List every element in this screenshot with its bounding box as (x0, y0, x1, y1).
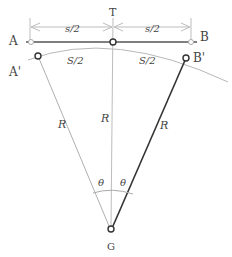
diagram-svg: T A B A' B' G s/2 s/2 S/2 S/2 R R R θ θ (0, 0, 232, 257)
label-G: G (107, 241, 115, 252)
point-B (189, 40, 194, 45)
arc-chord-diagram: T A B A' B' G s/2 s/2 S/2 S/2 R R R θ θ (0, 0, 232, 257)
label-A: A (8, 34, 18, 48)
point-T (110, 39, 116, 45)
point-A (29, 40, 34, 45)
label-B-prime: B' (193, 51, 205, 65)
point-G (108, 226, 114, 232)
label-angle-right: θ (120, 177, 126, 188)
center-axis-line (111, 18, 113, 227)
label-A-prime: A' (8, 65, 21, 79)
point-A-prime (35, 53, 41, 59)
label-half-chord-right: s/2 (145, 23, 160, 34)
label-half-chord-left: s/2 (65, 23, 80, 34)
label-angle-left: θ (98, 177, 104, 188)
radius-line-left (38, 56, 109, 226)
label-B: B (200, 30, 209, 44)
label-half-arc-left: S/2 (67, 55, 84, 66)
label-T: T (109, 6, 117, 19)
label-half-arc-right: S/2 (139, 55, 156, 66)
label-radius-left: R (57, 118, 66, 131)
label-radius-right: R (159, 119, 168, 132)
point-B-prime (183, 55, 189, 61)
radius-line-right (113, 58, 186, 226)
label-radius-center: R (100, 112, 109, 125)
